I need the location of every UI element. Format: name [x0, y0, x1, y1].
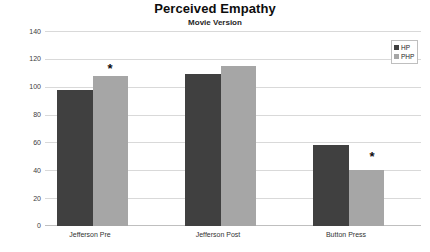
legend-item-hp: HP [394, 43, 414, 52]
significance-star-jefferson-pre: * [103, 64, 117, 73]
x-tick-jefferson-pre: Jefferson Pre [50, 231, 130, 238]
bar-jefferson-pre-hp [57, 90, 93, 227]
y-tick-60: 60 [7, 139, 41, 146]
x-tick-jefferson-post: Jefferson Post [178, 231, 258, 238]
gridline-120 [45, 59, 421, 60]
chart-title: Perceived Empathy [0, 1, 430, 16]
bar-jefferson-post-php [221, 66, 256, 226]
bar-button-press-php [349, 170, 384, 226]
chart-legend: HP PHP [391, 40, 418, 64]
legend-swatch-hp-icon [394, 45, 399, 50]
x-tick-button-press: Button Press [306, 231, 386, 238]
legend-label-php: PHP [401, 53, 414, 61]
y-tick-40: 40 [7, 167, 41, 174]
plot-area: * * [45, 31, 421, 226]
bar-button-press-hp [313, 145, 349, 226]
bar-chart: Perceived Empathy Movie Version 140 120 … [0, 0, 430, 252]
bar-jefferson-post-hp [185, 74, 221, 226]
legend-item-php: PHP [394, 52, 414, 61]
y-tick-0: 0 [7, 222, 41, 229]
y-tick-80: 80 [7, 111, 41, 118]
chart-subtitle: Movie Version [0, 18, 430, 27]
legend-label-hp: HP [401, 44, 410, 52]
bar-jefferson-pre-php [93, 76, 128, 226]
y-tick-120: 120 [7, 55, 41, 62]
gridline-140 [45, 31, 421, 32]
legend-swatch-php-icon [394, 54, 399, 59]
y-tick-100: 100 [7, 83, 41, 90]
y-tick-20: 20 [7, 195, 41, 202]
y-axis-tick-labels: 140 120 100 80 60 40 20 0 [4, 31, 41, 226]
y-tick-140: 140 [7, 28, 41, 35]
significance-star-button-press: * [365, 152, 379, 161]
